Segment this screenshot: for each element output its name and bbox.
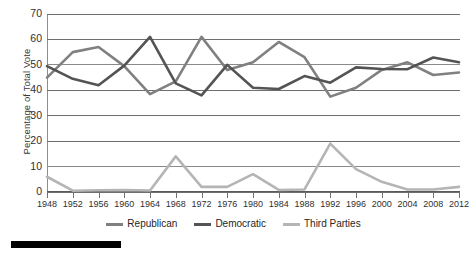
series-line-third-parties: [47, 144, 459, 191]
y-tick-label-20: 20: [18, 135, 42, 146]
y-axis-tick-labels: 010203040506070: [16, 0, 42, 256]
y-tick-label-50: 50: [18, 59, 42, 70]
bottom-rule: [11, 241, 121, 248]
legend-swatch-icon: [106, 223, 123, 226]
y-tick-label-70: 70: [18, 8, 42, 19]
legend-item-democratic[interactable]: Democratic: [194, 219, 266, 229]
x-tick-1964: [150, 192, 151, 198]
plot-area: [47, 14, 460, 192]
legend-item-third-parties[interactable]: Third Parties: [283, 219, 361, 229]
y-tick-label-60: 60: [18, 33, 42, 44]
legend-label: Democratic: [215, 219, 266, 229]
legend-label: Third Parties: [304, 219, 361, 229]
x-tick-1956: [99, 192, 100, 198]
x-tick-2008: [433, 192, 434, 198]
series-lines: [47, 14, 460, 192]
x-tick-label-2012: 2012: [442, 199, 474, 210]
y-tick-label-10: 10: [18, 161, 42, 172]
y-tick-label-0: 0: [18, 186, 42, 197]
x-tick-1948: [47, 192, 48, 198]
x-tick-1996: [356, 192, 357, 198]
x-tick-2012: [459, 192, 460, 198]
x-tick-2000: [382, 192, 383, 198]
chart-legend: RepublicanDemocraticThird Parties: [0, 219, 467, 229]
x-tick-2004: [408, 192, 409, 198]
y-tick-label-40: 40: [18, 84, 42, 95]
x-tick-1972: [202, 192, 203, 198]
legend-item-republican[interactable]: Republican: [106, 219, 177, 229]
x-tick-1968: [176, 192, 177, 198]
x-tick-1976: [227, 192, 228, 198]
x-tick-1984: [279, 192, 280, 198]
x-tick-1980: [253, 192, 254, 198]
legend-swatch-icon: [194, 223, 211, 226]
x-tick-1988: [305, 192, 306, 198]
x-axis-ticks: [47, 192, 460, 198]
x-axis-tick-labels: 1948195219561960196419681972197619801984…: [47, 199, 460, 213]
y-tick-label-30: 30: [18, 110, 42, 121]
legend-label: Republican: [127, 219, 177, 229]
legend-swatch-icon: [283, 223, 300, 226]
x-tick-1992: [330, 192, 331, 198]
x-tick-1952: [73, 192, 74, 198]
x-tick-1960: [124, 192, 125, 198]
